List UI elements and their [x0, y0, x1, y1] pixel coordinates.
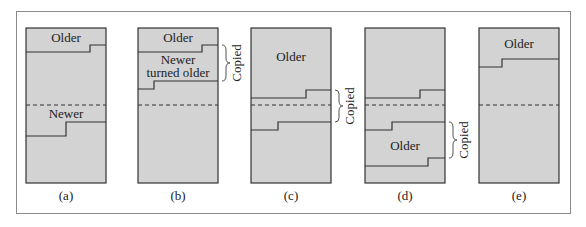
caption-d: (d): [397, 188, 412, 203]
caption-b: (b): [170, 188, 185, 203]
label-older-c: Older: [276, 49, 306, 64]
copied-label-c: Copied: [342, 87, 357, 125]
label-older-a: Older: [51, 30, 81, 45]
label-turned-older-b: turned older: [146, 65, 210, 80]
copied-label-b: Copied: [229, 44, 244, 82]
label-older-e: Older: [504, 36, 534, 51]
caption-e: (e): [512, 188, 526, 203]
label-older-d: Older: [390, 138, 420, 153]
copied-label-d: Copied: [456, 121, 471, 159]
caption-a: (a): [59, 188, 73, 203]
panel-e: [479, 28, 559, 183]
caption-c: (c): [284, 188, 298, 203]
label-newer-a: Newer: [49, 106, 84, 121]
generational-gc-diagram: Older Newer (a) Older Newer turned older…: [0, 0, 586, 227]
panel-d: [365, 28, 445, 183]
label-older-b: Older: [163, 30, 193, 45]
